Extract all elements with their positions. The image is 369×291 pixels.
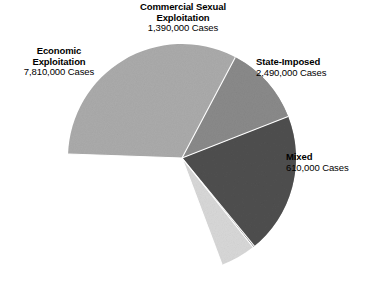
slice-label-value: 7,810,000 Cases: [6, 67, 112, 78]
slice-label-state-imposed: State-Imposed 2,490,000 Cases: [256, 57, 366, 78]
slice-label-economic-exploitation: Economic Exploitation 7,810,000 Cases: [6, 46, 112, 78]
pie-chart: Commercial Sexual Exploitation 1,390,000…: [0, 0, 369, 291]
slice-label-commercial-sexual-exploitation: Commercial Sexual Exploitation 1,390,000…: [112, 2, 254, 34]
slice-label-value: 1,390,000 Cases: [112, 23, 254, 34]
slice-label-mixed: Mixed 610,000 Cases: [286, 152, 366, 173]
slice-label-value: 2,490,000 Cases: [256, 68, 366, 79]
pie-chart-canvas: [0, 0, 369, 291]
slice-label-value: 610,000 Cases: [286, 163, 366, 174]
